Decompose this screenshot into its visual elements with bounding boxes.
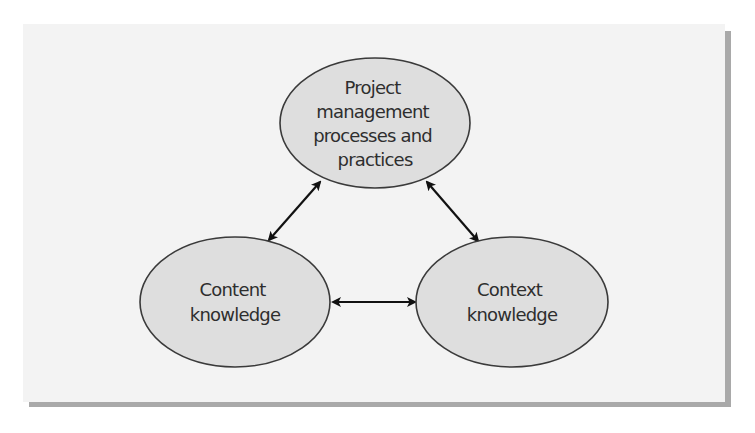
- node-label-line: processes and: [313, 125, 432, 146]
- node-label-line: practices: [338, 149, 413, 170]
- diagram-canvas: Project management processes and practic…: [0, 0, 755, 433]
- node-label-line: Content: [200, 279, 267, 300]
- node-label-line: management: [316, 101, 429, 122]
- edge-pm-content: [269, 182, 320, 240]
- node-content-knowledge: Content knowledge: [140, 237, 330, 367]
- node-label-line: knowledge: [467, 304, 558, 325]
- node-shape: [416, 237, 608, 367]
- node-label-line: knowledge: [190, 304, 281, 325]
- node-shape: [140, 237, 330, 367]
- node-project-management: Project management processes and practic…: [280, 58, 470, 188]
- node-context-knowledge: Context knowledge: [416, 237, 608, 367]
- edge-pm-context: [427, 182, 478, 241]
- node-label-line: Context: [477, 279, 543, 300]
- node-label-line: Project: [345, 77, 402, 98]
